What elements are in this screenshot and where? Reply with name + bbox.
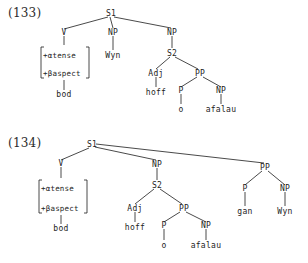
node-s2: S2	[167, 49, 177, 58]
node-s1: S1	[106, 9, 116, 18]
node-v: V	[61, 28, 66, 37]
feature-bracket-right	[86, 47, 89, 78]
edge-s1-v-134	[61, 148, 89, 160]
edge-s1-v	[64, 17, 108, 29]
node-np-complement: NP	[216, 86, 226, 95]
node-p: P	[178, 86, 183, 95]
edge-s2-adj	[156, 57, 170, 69]
feature-tense: +αtense	[43, 51, 76, 60]
terminal-wyn-134: Wyn	[277, 207, 292, 216]
node-s1-134: S1	[87, 140, 97, 149]
node-np-object: NP	[167, 28, 177, 37]
node-np-subject: NP	[108, 28, 118, 37]
node-pp-inner: PP	[179, 204, 189, 213]
feature-bracket-right-134	[84, 180, 87, 213]
tree-134: +αtense +βaspect S1 V NP	[0, 130, 308, 263]
node-np-predicate: NP	[152, 160, 162, 169]
terminal-afalau-134: afalau	[191, 241, 222, 250]
node-p-outer: P	[242, 184, 247, 193]
terminal-bod: bod	[56, 90, 71, 99]
edge-s2-pp-134	[160, 189, 182, 204]
edge-s1-np-object	[114, 17, 171, 28]
edge-s1-np-subject	[110, 17, 113, 28]
terminal-o-134: o	[161, 241, 166, 250]
node-s2-134: S2	[152, 181, 162, 190]
terminal-o: o	[178, 105, 183, 114]
terminal-bod-134: bod	[53, 224, 68, 233]
node-np-outer: NP	[280, 184, 290, 193]
feature-aspect-134: +βaspect	[41, 204, 79, 213]
example-134: (134) +αtense +βaspect	[0, 130, 308, 263]
edge-pp-outer-np	[268, 171, 285, 185]
node-adj: Adj	[148, 69, 163, 78]
edge-s2-pp	[175, 57, 198, 69]
terminal-hoff-134: hoff	[125, 223, 145, 232]
edge-s2-adj-134	[135, 189, 154, 204]
node-adj-134: Adj	[127, 204, 142, 213]
tree-133: +αtense +βaspect S1 V NP NP S2	[0, 0, 308, 131]
example-133: (133) +αtense +βaspect	[0, 0, 308, 131]
feature-aspect: +βaspect	[43, 69, 81, 78]
terminal-afalau: afalau	[206, 105, 237, 114]
node-np-inner: NP	[201, 221, 211, 230]
terminal-wyn: Wyn	[105, 51, 120, 60]
feature-tense-134: +αtense	[41, 184, 74, 193]
edge-s1-np-134	[95, 147, 156, 160]
terminal-gan: gan	[237, 207, 252, 216]
edge-s1-pp-134	[96, 144, 264, 163]
node-p-inner: P	[161, 221, 166, 230]
figure-page: (133) +αtense +βaspect	[0, 0, 308, 263]
node-v-134: V	[58, 159, 63, 168]
edge-pp-outer-p	[245, 171, 262, 185]
terminal-hoff: hoff	[146, 88, 166, 97]
node-pp-outer: PP	[260, 163, 270, 172]
node-pp: PP	[195, 69, 205, 78]
